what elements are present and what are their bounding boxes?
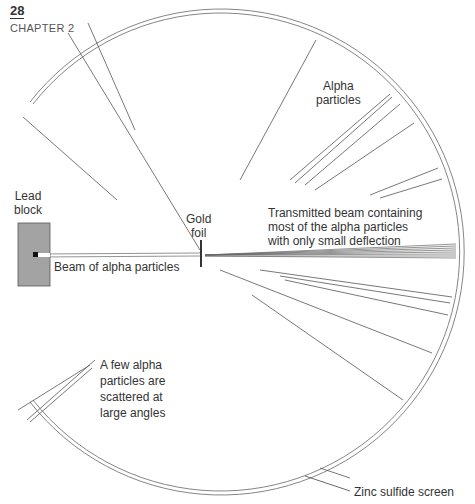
beam-label: Beam of alpha particles [54, 260, 179, 274]
scattered-rays [18, 23, 452, 478]
incident-beam [38, 253, 200, 257]
zinc-sulfide-screen [30, 9, 464, 495]
scattering-diagram [0, 0, 475, 504]
alpha-source [33, 252, 38, 257]
large-angle-label: A few alphaparticles arescattered atlarg… [100, 357, 165, 421]
gold-foil-label: Goldfoil [186, 212, 211, 240]
screen-pointer [305, 476, 350, 491]
lead-block-label: Leadblock [14, 189, 42, 217]
alpha-particles-label: Alphaparticles [316, 79, 361, 107]
screen-label: Zinc sulfide screen [354, 485, 454, 499]
transmitted-beam-label: Transmitted beam containingmost of the a… [268, 206, 422, 248]
